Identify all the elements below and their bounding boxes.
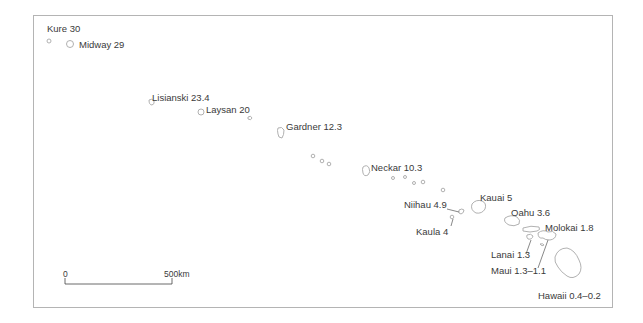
island-niihau xyxy=(459,209,464,214)
label-midway: Midway 29 xyxy=(79,40,124,50)
scale-bar xyxy=(65,278,172,284)
label-niihau: Niihau 4.9 xyxy=(404,200,447,210)
label-oahu: Oahu 3.6 xyxy=(511,208,550,218)
scale-start-label: 0 xyxy=(63,270,68,279)
label-kure: Kure 30 xyxy=(47,24,80,34)
label-hawaii: Hawaii 0.4–0.2 xyxy=(538,291,601,301)
label-kaula: Kaula 4 xyxy=(416,227,448,237)
island-midway xyxy=(67,41,74,48)
island-molokai xyxy=(523,226,540,232)
island-laysan xyxy=(198,109,204,115)
label-molokai: Molokai 1.8 xyxy=(545,223,594,233)
label-laysan: Laysan 20 xyxy=(206,105,250,115)
label-gardner: Gardner 12.3 xyxy=(286,122,342,132)
label-lisianski: Lisianski 23.4 xyxy=(152,93,210,103)
island-hawaii xyxy=(555,248,581,278)
label-lanai: Lanai 1.3 xyxy=(491,250,530,260)
label-neckar: Neckar 10.3 xyxy=(371,163,422,173)
label-kauai: Kauai 5 xyxy=(480,193,512,203)
island-kure xyxy=(47,39,51,43)
island-lanai xyxy=(527,234,533,239)
island-kaula xyxy=(450,215,454,219)
island-neckar xyxy=(363,166,370,176)
label-maui: Maui 1.3–1.1 xyxy=(491,266,546,276)
island-gardner xyxy=(278,127,285,138)
scale-end-label: 500km xyxy=(164,270,190,279)
